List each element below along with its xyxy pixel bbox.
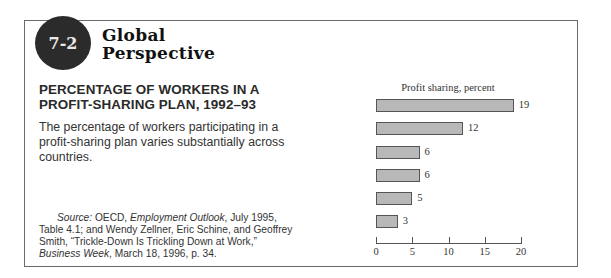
bar bbox=[376, 169, 420, 182]
x-tick-label: 10 bbox=[439, 246, 459, 257]
bar bbox=[376, 99, 514, 112]
x-axis-tick bbox=[449, 237, 450, 244]
x-tick-label: 5 bbox=[402, 246, 422, 257]
bar-value-label: 3 bbox=[403, 215, 408, 226]
bar-value-label: 6 bbox=[425, 169, 430, 180]
bar-value-label: 6 bbox=[425, 146, 430, 157]
x-axis-tick bbox=[521, 237, 522, 244]
bar-value-label: 12 bbox=[468, 122, 479, 133]
bar-chart: Profit sharing, percent France19Canada12… bbox=[0, 0, 611, 278]
x-axis-tick bbox=[376, 237, 377, 244]
x-axis-tick bbox=[412, 237, 413, 244]
chart-title: Profit sharing, percent bbox=[376, 82, 520, 93]
x-tick-label: 20 bbox=[511, 246, 531, 257]
x-tick-label: 0 bbox=[366, 246, 386, 257]
bar bbox=[376, 192, 412, 205]
bar-value-label: 19 bbox=[519, 99, 530, 110]
x-tick-label: 15 bbox=[475, 246, 495, 257]
bar-value-label: 5 bbox=[417, 192, 422, 203]
x-axis-tick bbox=[485, 237, 486, 244]
bar bbox=[376, 122, 463, 135]
bar bbox=[376, 215, 398, 228]
bar bbox=[376, 146, 420, 159]
